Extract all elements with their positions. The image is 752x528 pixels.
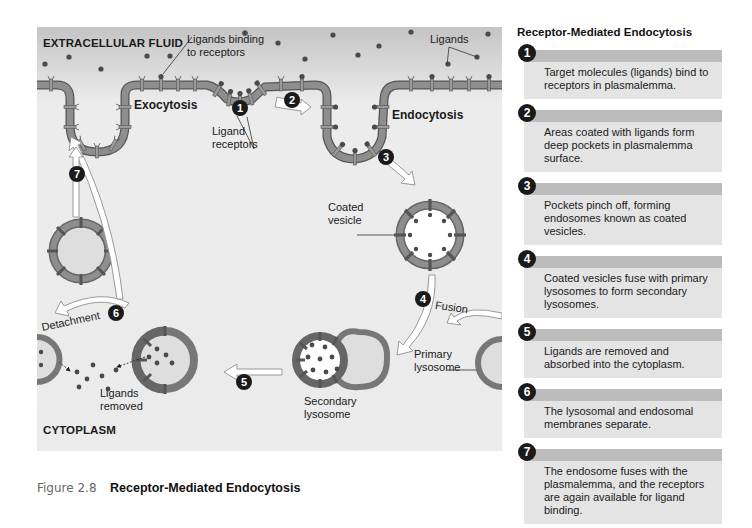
- step-box: 5Ligands are removed and absorbed into t…: [524, 329, 722, 378]
- step-box: 3Pockets pinch off, forming endosomes kn…: [524, 183, 722, 245]
- step-number-badge: 6: [518, 383, 536, 401]
- exocytosis-label: Exocytosis: [134, 99, 197, 112]
- step-number-badge: 3: [518, 177, 536, 195]
- detached-lysosome: [37, 337, 60, 382]
- step-header: [524, 110, 722, 122]
- ligand-receptors-label: Ligand receptors: [212, 125, 258, 151]
- endocytosis-diagram: 1 2 3 4 5 6 7 EXTRACELLULAR FLUID CYTOPL…: [37, 27, 502, 451]
- figure-title: Receptor-Mediated Endocytosis: [110, 481, 300, 495]
- steps-list: 1Target molecules (ligands) bind to rece…: [517, 50, 737, 524]
- svg-text:7: 7: [74, 168, 80, 180]
- svg-text:2: 2: [289, 94, 295, 106]
- step-box: 2Areas coated with ligands form deep poc…: [524, 110, 722, 172]
- step-text: Coated vesicles fuse with primary lysoso…: [524, 268, 722, 318]
- step-number-badge: 1: [518, 44, 536, 62]
- coated-vesicle-label: Coated vesicle: [328, 201, 363, 227]
- primary-lysosome: [478, 339, 502, 387]
- step-box: 6The lysosomal and endosomal membranes s…: [524, 389, 722, 438]
- step-number-badge: 7: [518, 443, 536, 461]
- ligands-binding-label: Ligands binding to receptors: [187, 33, 264, 59]
- steps-panel: Receptor-Mediated Endocytosis 1Target mo…: [517, 26, 737, 528]
- svg-text:1: 1: [237, 102, 243, 114]
- step-box: 7The endosome fuses with the plasmalemma…: [524, 449, 722, 524]
- step-text: The endosome fuses with the plasmalemma,…: [524, 461, 722, 524]
- step-header: [524, 389, 722, 401]
- step-text: The lysosomal and endosomal membranes se…: [524, 401, 722, 438]
- svg-text:6: 6: [113, 307, 119, 319]
- svg-text:5: 5: [241, 376, 247, 388]
- step-header: [524, 449, 722, 461]
- extracellular-fluid-label: EXTRACELLULAR FLUID: [43, 37, 183, 50]
- secondary-lysosome: [296, 331, 387, 388]
- ligands-removed-label: Ligands removed: [100, 387, 143, 413]
- svg-text:4: 4: [420, 293, 427, 305]
- secondary-lysosome-label: Secondary lysosome: [304, 395, 357, 421]
- primary-lysosome-label: Primary lysosome: [414, 348, 460, 374]
- step-number-badge: 4: [518, 250, 536, 268]
- step-text: Pockets pinch off, forming endosomes kno…: [524, 195, 722, 245]
- cytoplasm-label: CYTOPLASM: [43, 424, 116, 437]
- step-header: [524, 183, 722, 195]
- step-number-badge: 5: [518, 323, 536, 341]
- step-box: 4Coated vesicles fuse with primary lysos…: [524, 256, 722, 318]
- figure-number: Figure 2.8: [37, 481, 97, 495]
- ligands-label: Ligands: [430, 33, 469, 46]
- svg-text:3: 3: [383, 151, 389, 163]
- step-header: [524, 256, 722, 268]
- step-text: Areas coated with ligands form deep pock…: [524, 122, 722, 172]
- separating-endosome: [136, 326, 194, 394]
- step-text: Target molecules (ligands) bind to recep…: [524, 62, 722, 99]
- step-number-badge: 2: [518, 104, 536, 122]
- step-header: [524, 50, 722, 62]
- step-header: [524, 329, 722, 341]
- step-box: 1Target molecules (ligands) bind to rece…: [524, 50, 722, 99]
- step-text: Ligands are removed and absorbed into th…: [524, 341, 722, 378]
- endocytosis-label: Endocytosis: [392, 109, 463, 122]
- panel-title: Receptor-Mediated Endocytosis: [517, 26, 737, 38]
- figure-caption: Figure 2.8 Receptor-Mediated Endocytosis: [37, 481, 300, 495]
